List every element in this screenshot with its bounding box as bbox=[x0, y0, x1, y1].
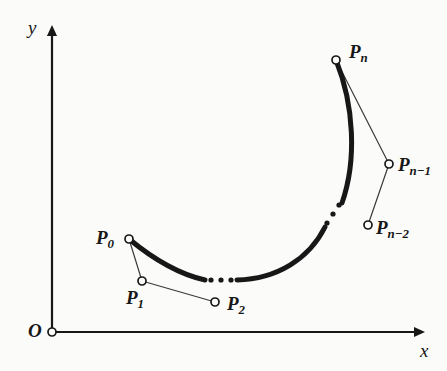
control-point-marker-P0 bbox=[125, 235, 133, 243]
point-label-subscript-Pn-2: n−2 bbox=[388, 226, 409, 241]
figure-canvas: P0P1P2PnPn−1Pn−2yxO bbox=[0, 0, 447, 371]
control-point-marker-Pn-1 bbox=[385, 160, 393, 168]
x-axis-label: x bbox=[420, 341, 428, 360]
point-label-P1: P1 bbox=[126, 288, 144, 311]
ellipsis-upper-right-dot-1 bbox=[324, 220, 329, 225]
control-point-marker-Pn-2 bbox=[364, 221, 372, 229]
ellipsis-bottom-dot-1 bbox=[208, 277, 213, 282]
control-point-marker-P1 bbox=[138, 277, 146, 285]
point-label-subscript-P0: 0 bbox=[108, 236, 114, 251]
control-polygon-segment-Pn-1-Pn-2 bbox=[368, 164, 389, 225]
axes-group bbox=[47, 25, 425, 337]
point-label-subscript-P2: 2 bbox=[239, 302, 245, 317]
control-polygon-segment-P1-P2 bbox=[142, 281, 215, 302]
x-axis-arrowhead bbox=[414, 327, 425, 337]
point-label-subscript-Pn-1: n−1 bbox=[410, 163, 431, 178]
diagram-svg bbox=[0, 0, 447, 371]
control-point-marker-Pn bbox=[332, 56, 340, 64]
bezier-curve-group bbox=[129, 60, 352, 280]
curve-bottom bbox=[237, 227, 325, 280]
origin-point-marker bbox=[48, 328, 56, 336]
ellipsis-bottom-dot-2 bbox=[218, 277, 223, 282]
point-label-base-P0: P bbox=[96, 227, 108, 248]
y-axis-arrowhead bbox=[47, 25, 57, 36]
point-label-base-Pn-2: P bbox=[376, 217, 388, 238]
curve-right bbox=[336, 60, 352, 203]
point-label-base-Pn: P bbox=[349, 41, 361, 62]
ellipsis-bottom-dot-3 bbox=[228, 277, 233, 282]
ellipsis-upper-right-dot-2 bbox=[330, 211, 335, 216]
point-label-Pn: Pn bbox=[349, 42, 368, 65]
point-label-base-P1: P bbox=[126, 287, 138, 308]
point-label-subscript-Pn: n bbox=[361, 50, 368, 65]
control-point-marker-P2 bbox=[211, 298, 219, 306]
point-label-P2: P2 bbox=[227, 294, 245, 317]
point-label-base-P2: P bbox=[227, 293, 239, 314]
y-axis-label: y bbox=[28, 18, 36, 37]
point-label-P0: P0 bbox=[96, 228, 114, 251]
origin-label: O bbox=[28, 321, 42, 340]
point-label-subscript-P1: 1 bbox=[138, 296, 144, 311]
point-label-Pn-1: Pn−1 bbox=[398, 155, 431, 178]
point-label-Pn-2: Pn−2 bbox=[376, 218, 409, 241]
ellipsis-upper-right-dot-3 bbox=[336, 202, 341, 207]
point-label-base-Pn-1: P bbox=[398, 154, 410, 175]
